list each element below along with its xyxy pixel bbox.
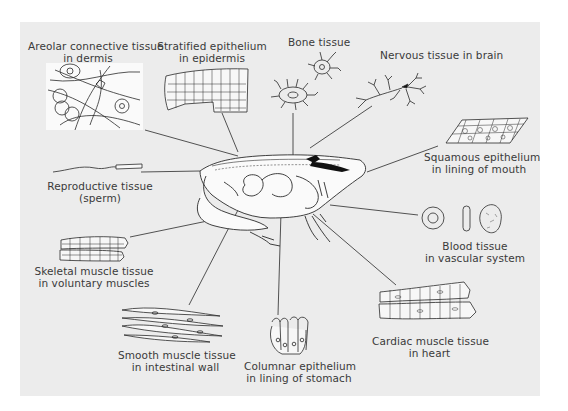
squamous-epithelium-drawing [446, 118, 528, 143]
label-squamous: Squamous epithelium in lining of mouth [424, 151, 534, 175]
label-areolar: Areolar connective tissue in dermis [28, 40, 148, 64]
columnar-epithelium-drawing [270, 317, 308, 354]
cardiac-muscle-drawing [379, 282, 476, 319]
nervous-tissue-drawing [356, 73, 426, 108]
smooth-muscle-drawing [122, 308, 223, 342]
sperm-drawing [53, 164, 142, 172]
label-smooth: Smooth muscle tissue in intestinal wall [118, 349, 233, 373]
areolar-tissue-drawing [46, 63, 143, 130]
label-columnar: Columnar epithelium in lining of stomach [244, 360, 354, 384]
label-blood: Blood tissue in vascular system [420, 240, 530, 264]
label-skeletal: Skeletal muscle tissue in voluntary musc… [34, 265, 154, 289]
bone-tissue-drawing [271, 52, 341, 110]
label-bone: Bone tissue [288, 36, 348, 48]
stratified-epithelium-drawing [165, 69, 248, 112]
label-reproductive: Reproductive tissue (sperm) [45, 180, 155, 204]
label-cardiac: Cardiac muscle tissue in heart [372, 335, 487, 359]
blood-tissue-drawing [422, 205, 501, 233]
label-nervous: Nervous tissue in brain [380, 49, 500, 61]
frog-drawing [197, 155, 365, 246]
skeletal-muscle-drawing [60, 237, 128, 261]
label-stratified: Stratified epithelium in epidermis [157, 40, 267, 64]
